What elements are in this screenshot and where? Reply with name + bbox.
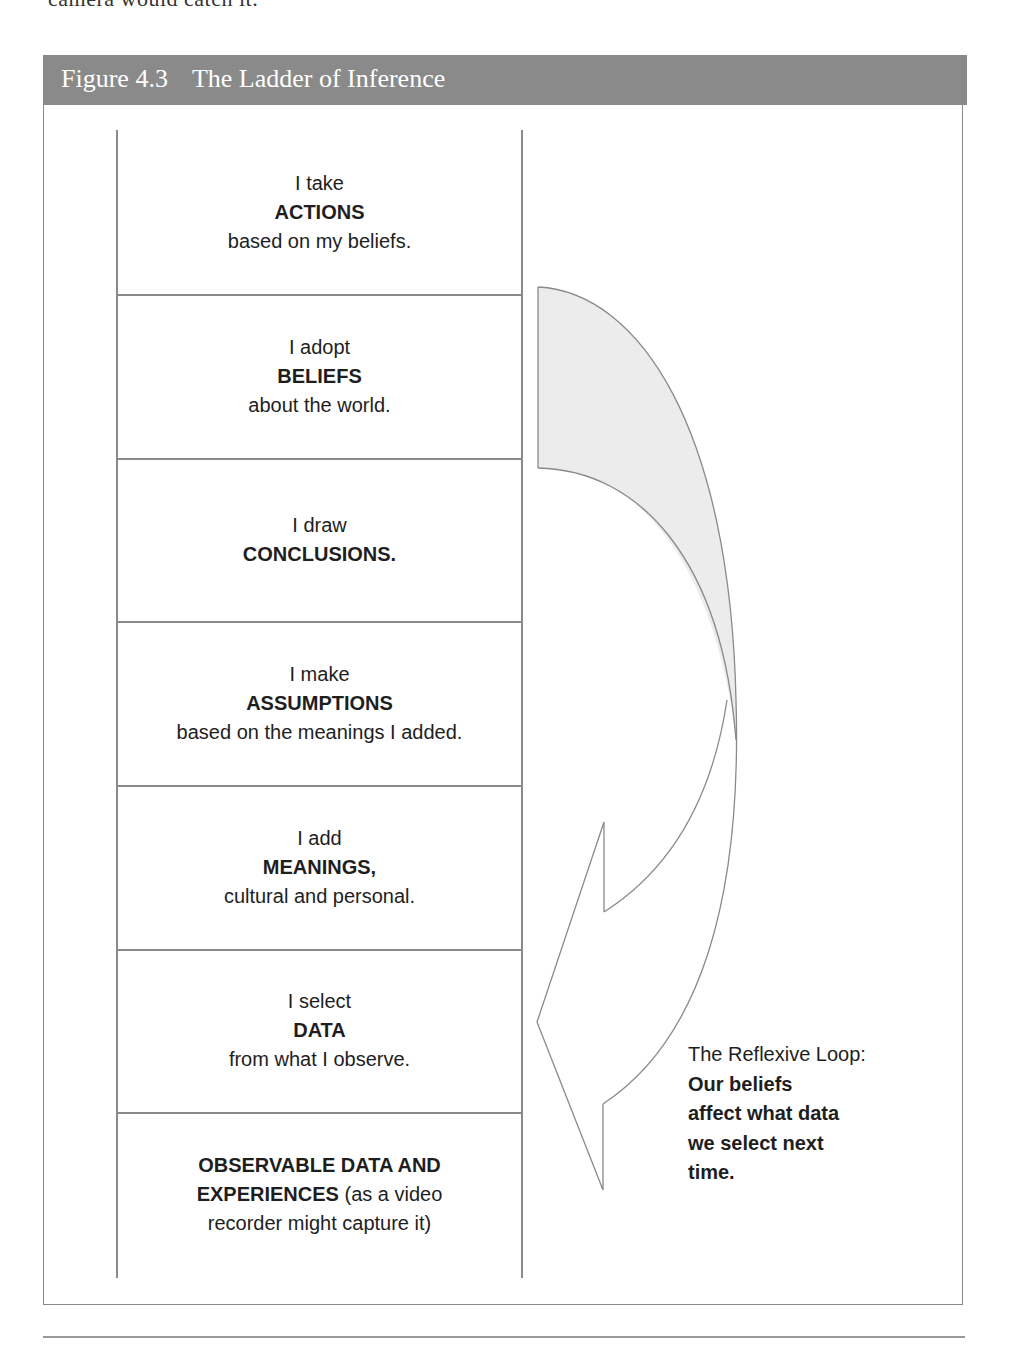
reflexive-loop-note: The Reflexive Loop: Our beliefs affect w…	[688, 1040, 866, 1188]
reflexive-loop-heading: The Reflexive Loop:	[688, 1040, 866, 1070]
reflexive-loop-line: time.	[688, 1158, 866, 1188]
reflexive-loop-line: Our beliefs	[688, 1070, 866, 1100]
page-bottom-rule	[43, 1336, 965, 1338]
reflexive-loop-line: we select next	[688, 1129, 866, 1159]
reflexive-loop-line: affect what data	[688, 1099, 866, 1129]
